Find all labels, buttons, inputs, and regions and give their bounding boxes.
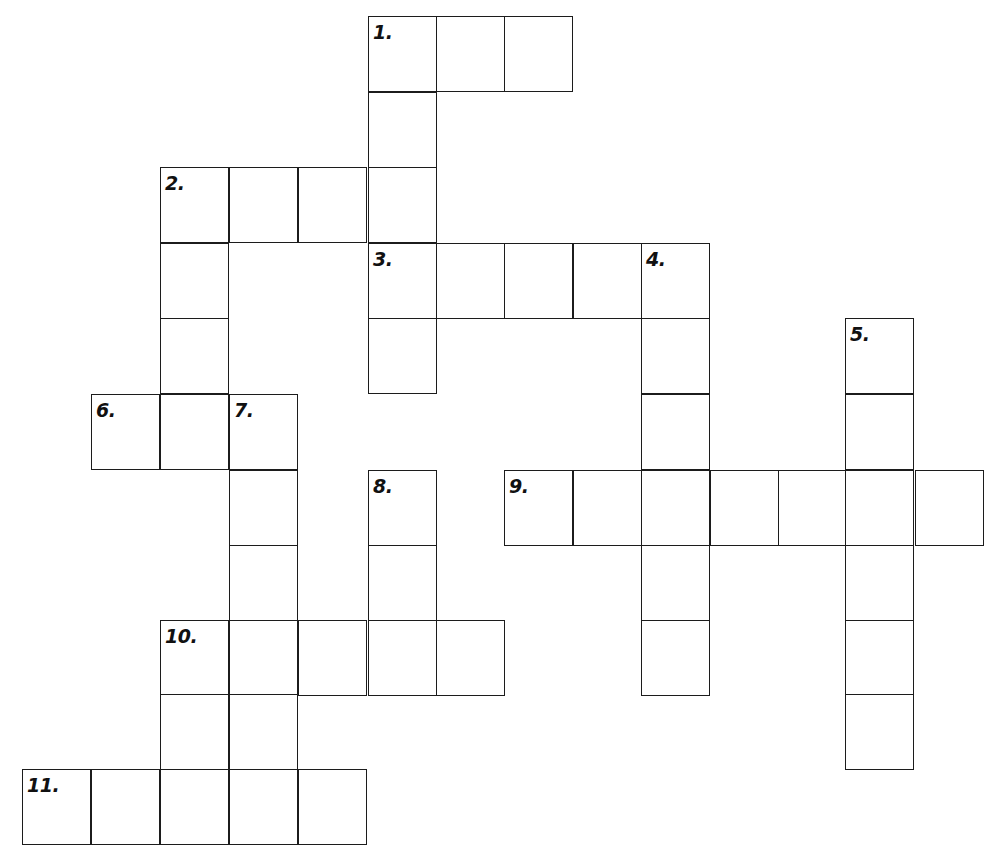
crossword-cell[interactable] <box>160 318 229 394</box>
crossword-cell[interactable] <box>160 394 229 470</box>
crossword-cell[interactable] <box>641 394 710 470</box>
crossword-cell[interactable] <box>368 243 437 319</box>
crossword-cell[interactable] <box>229 620 298 696</box>
crossword-cell[interactable] <box>229 394 298 470</box>
crossword-cell[interactable] <box>436 243 505 319</box>
crossword-cell[interactable] <box>845 620 914 696</box>
crossword-cell[interactable] <box>298 620 367 696</box>
crossword-cell[interactable] <box>298 167 367 243</box>
crossword-cell[interactable] <box>504 243 573 319</box>
crossword-cell[interactable] <box>229 470 298 546</box>
crossword-cell[interactable] <box>710 470 779 546</box>
crossword-cell[interactable] <box>504 470 573 546</box>
crossword-cell[interactable] <box>368 470 437 546</box>
crossword-cell[interactable] <box>845 470 914 546</box>
crossword-cell[interactable] <box>504 16 573 92</box>
crossword-cell[interactable] <box>368 92 437 168</box>
crossword-cell[interactable] <box>160 769 229 845</box>
crossword-cell[interactable] <box>368 545 437 621</box>
crossword-cell[interactable] <box>915 470 984 546</box>
crossword-cell[interactable] <box>641 243 710 319</box>
crossword-cell[interactable] <box>160 694 229 770</box>
crossword-cell[interactable] <box>160 167 229 243</box>
crossword-cell[interactable] <box>778 470 847 546</box>
crossword-grid: 1.2.3.4.5.6.7.8.9.10.11. <box>0 0 998 865</box>
crossword-cell[interactable] <box>229 769 298 845</box>
crossword-cell[interactable] <box>22 769 91 845</box>
crossword-cell[interactable] <box>641 318 710 394</box>
crossword-cell[interactable] <box>368 16 437 92</box>
crossword-cell[interactable] <box>845 318 914 394</box>
crossword-cell[interactable] <box>368 620 437 696</box>
crossword-cell[interactable] <box>229 545 298 621</box>
crossword-cell[interactable] <box>368 318 437 394</box>
crossword-cell[interactable] <box>91 394 160 470</box>
crossword-cell[interactable] <box>229 694 298 770</box>
crossword-cell[interactable] <box>298 769 367 845</box>
crossword-cell[interactable] <box>436 620 505 696</box>
crossword-cell[interactable] <box>641 620 710 696</box>
crossword-cell[interactable] <box>641 470 710 546</box>
crossword-cell[interactable] <box>160 243 229 319</box>
crossword-cell[interactable] <box>229 167 298 243</box>
crossword-cell[interactable] <box>845 694 914 770</box>
crossword-cell[interactable] <box>573 243 642 319</box>
crossword-cell[interactable] <box>845 545 914 621</box>
crossword-cell[interactable] <box>436 16 505 92</box>
crossword-cell[interactable] <box>368 167 437 243</box>
crossword-cell[interactable] <box>160 620 229 696</box>
crossword-cell[interactable] <box>91 769 160 845</box>
crossword-cell[interactable] <box>845 394 914 470</box>
crossword-cell[interactable] <box>573 470 642 546</box>
crossword-cell[interactable] <box>641 545 710 621</box>
